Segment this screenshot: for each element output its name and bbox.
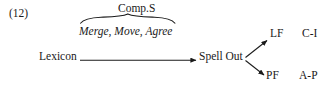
arrow-spell-out-to-lf <box>246 41 268 58</box>
arrow-spell-out-to-pf <box>246 61 265 76</box>
diagram-lines-layer <box>0 0 329 91</box>
node-lexicon: Lexicon <box>39 51 77 63</box>
node-spell-out: Spell Out <box>199 51 243 63</box>
operations-label: Merge, Move, Agree <box>79 26 172 38</box>
curly-brace-icon <box>81 14 176 23</box>
node-ci: C-I <box>302 28 317 40</box>
node-pf: PF <box>266 70 279 82</box>
example-number: (12) <box>9 8 28 20</box>
derivation-diagram: (12) Comp.S Merge, Move, Agree Lexicon S… <box>0 0 329 91</box>
node-ap: A-P <box>299 70 318 82</box>
node-lf: LF <box>270 28 283 40</box>
computational-system-label: Comp.S <box>118 3 155 15</box>
